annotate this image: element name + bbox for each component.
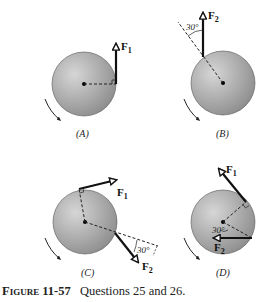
force-f1-subscript: 1 bbox=[124, 192, 128, 201]
svg-text:F1: F1 bbox=[226, 163, 237, 178]
angle-label: 30° bbox=[211, 225, 225, 235]
panel-b-label: (B) bbox=[216, 128, 229, 140]
force-f1-subscript: 1 bbox=[233, 169, 237, 178]
svg-text:F2: F2 bbox=[142, 260, 153, 275]
panel-d-label: (D) bbox=[216, 267, 231, 279]
angle-label: 30° bbox=[185, 22, 199, 32]
panel-b: 30° F2 (B) bbox=[178, 9, 255, 140]
panel-c-label: (C) bbox=[81, 267, 95, 279]
svg-text:F1: F1 bbox=[117, 186, 128, 201]
force-f2-arrow bbox=[115, 233, 138, 262]
rotation-arrow-icon bbox=[45, 238, 60, 259]
panel-d: F1 30° F2 (D) bbox=[184, 163, 255, 279]
caption-text: Questions 25 and 26. bbox=[80, 284, 186, 298]
svg-text:F2: F2 bbox=[208, 9, 219, 24]
force-f1-arrow bbox=[79, 180, 116, 189]
angle-ref-line bbox=[153, 246, 157, 256]
force-f2-subscript: 2 bbox=[149, 266, 153, 275]
figure-caption: Figure 11-57 Questions 25 and 26. bbox=[2, 284, 185, 299]
force-f2-subscript: 2 bbox=[215, 15, 219, 24]
panel-a: F1 (A) bbox=[45, 40, 132, 140]
rotation-arrow-icon bbox=[184, 99, 199, 120]
panel-a-label: (A) bbox=[76, 128, 89, 140]
panel-c: F1 30° F2 (C) bbox=[45, 180, 158, 279]
angle-label: 30° bbox=[136, 245, 150, 255]
svg-text:F1: F1 bbox=[121, 40, 132, 55]
rotation-arrow-icon bbox=[184, 238, 199, 259]
figure-diagram: F1 (A) 30° F2 (B) F1 30° F2 (C) bbox=[0, 0, 270, 302]
figure-number: Figure 11-57 bbox=[2, 284, 71, 298]
force-f2-subscript: 2 bbox=[221, 247, 225, 256]
force-f1-subscript: 1 bbox=[128, 46, 132, 55]
